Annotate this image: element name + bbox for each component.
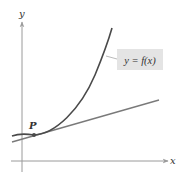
point-p-label: P xyxy=(28,120,37,131)
curve-label: y = f(x) xyxy=(123,55,156,67)
tangent-line-diagram: y x y = f(x) P xyxy=(0,0,180,179)
function-curve xyxy=(12,28,112,136)
y-axis-label: y xyxy=(18,8,25,19)
label-connector xyxy=(106,56,117,59)
point-p xyxy=(32,133,36,137)
x-axis-label: x xyxy=(170,155,176,166)
